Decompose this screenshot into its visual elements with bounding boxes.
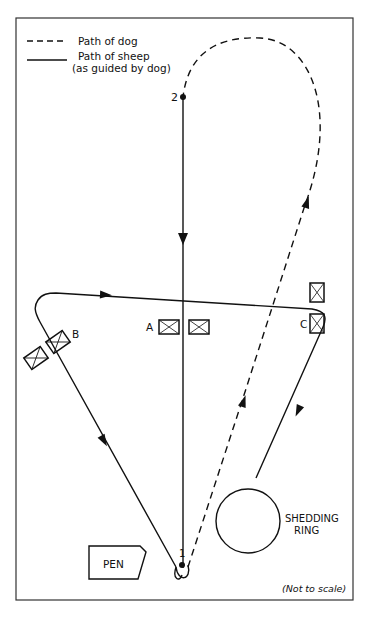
shedding-ring (216, 489, 280, 553)
sheep-arrow-down (178, 233, 188, 245)
sheepdog-trial-diagram: Path of dog Path of sheep (as guided by … (0, 0, 371, 618)
dog-arrow-upper (301, 195, 312, 209)
point-1-marker (179, 562, 185, 568)
not-to-scale-note: (Not to scale) (282, 583, 346, 594)
obstacle-b (46, 331, 70, 354)
shedding-ring-label-2: RING (294, 525, 319, 536)
legend: Path of dog Path of sheep (as guided by … (27, 35, 171, 74)
obstacle-a-pair (189, 320, 209, 334)
legend-sheep-sublabel: (as guided by dog) (72, 62, 171, 74)
obstacle-c-label: C (300, 318, 307, 330)
dog-arrow-lower (238, 394, 249, 408)
obstacle-c (310, 283, 324, 302)
pen-label: PEN (103, 558, 124, 570)
sheep-arrow-top-leg (100, 291, 112, 300)
obstacle-c-pair (310, 314, 324, 333)
point-1-label: 1 (179, 548, 185, 559)
obstacle-b-label: B (72, 328, 79, 340)
point-2-marker (180, 94, 186, 100)
obstacle-b-pair (24, 347, 48, 370)
obstacle-a-label: A (146, 321, 154, 333)
obstacle-a (159, 320, 179, 334)
shedding-ring-label-1: SHEDDING (285, 513, 339, 524)
legend-dog-label: Path of dog (78, 35, 138, 47)
point-2-label: 2 (171, 91, 178, 104)
legend-sheep-label: Path of sheep (78, 50, 150, 62)
sheep-arrow-right-leg (292, 404, 304, 418)
